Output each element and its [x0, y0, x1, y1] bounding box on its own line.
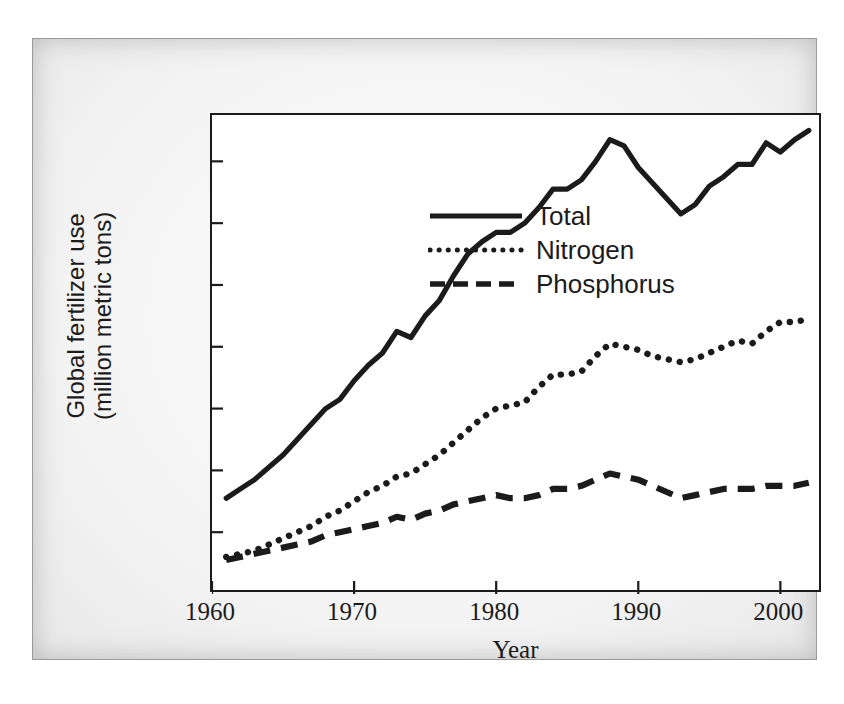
plot-area: Total Nitrogen Phosphorus	[210, 113, 821, 592]
x-tick-label-1970: 1970	[327, 599, 377, 624]
plot-svg	[212, 115, 823, 594]
legend: Total Nitrogen Phosphorus	[428, 199, 728, 301]
legend-label-nitrogen: Nitrogen	[536, 237, 634, 263]
solid-line-icon	[428, 206, 524, 226]
series-line-nitrogen	[226, 319, 809, 557]
x-tick-label-1960: 1960	[185, 599, 235, 624]
dotted-line-icon	[428, 240, 524, 260]
legend-label-phosphorus: Phosphorus	[536, 271, 675, 297]
legend-item-total: Total	[428, 199, 728, 233]
figure-panel: 140 120 100 80 60 40 20 0 Global fertili…	[32, 38, 817, 660]
legend-item-phosphorus: Phosphorus	[428, 267, 728, 301]
x-tick-label-2000: 2000	[753, 599, 803, 624]
series-line-phosphorus	[226, 473, 809, 560]
x-tick-label-1990: 1990	[611, 599, 661, 624]
x-tick-label-1980: 1980	[469, 599, 519, 624]
series-line-total	[226, 130, 809, 498]
x-axis-title: Year	[210, 636, 821, 664]
dashed-line-icon	[428, 274, 524, 294]
figure-root: 140 120 100 80 60 40 20 0 Global fertili…	[0, 0, 844, 704]
legend-item-nitrogen: Nitrogen	[428, 233, 728, 267]
legend-label-total: Total	[536, 203, 591, 229]
